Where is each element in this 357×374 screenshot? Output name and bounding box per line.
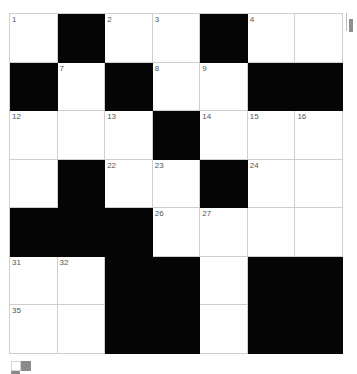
- clue-number: 23: [155, 161, 164, 170]
- clue-number: 26: [155, 209, 164, 218]
- crossword-cell[interactable]: [200, 305, 248, 354]
- crossword-cell[interactable]: [295, 14, 343, 63]
- clue-number: 31: [12, 258, 21, 267]
- crossword-cell[interactable]: 4: [248, 14, 296, 63]
- scrollbar[interactable]: [346, 13, 354, 33]
- black-cell: [153, 111, 201, 160]
- crossword-cell[interactable]: 35: [10, 305, 58, 354]
- clue-number: 13: [107, 112, 116, 121]
- black-cell: [105, 63, 153, 112]
- crossword-cell[interactable]: 8: [153, 63, 201, 112]
- clue-number: 4: [250, 15, 254, 24]
- black-cell: [105, 208, 153, 257]
- black-cell: [153, 257, 201, 306]
- black-cell: [248, 305, 296, 354]
- clue-number: 32: [60, 258, 69, 267]
- gray-square-icon: [21, 361, 31, 371]
- black-cell: [58, 14, 106, 63]
- black-cell: [295, 63, 343, 112]
- clue-number: 27: [202, 209, 211, 218]
- black-cell: [295, 305, 343, 354]
- clue-number: 1: [12, 15, 16, 24]
- black-cell: [248, 257, 296, 306]
- black-cell: [200, 160, 248, 209]
- clue-number: 15: [250, 112, 259, 121]
- crossword-cell[interactable]: 32: [58, 257, 106, 306]
- black-cell: [153, 305, 201, 354]
- black-cell: [295, 257, 343, 306]
- crossword-cell[interactable]: 24: [248, 160, 296, 209]
- crossword-cell[interactable]: 13: [105, 111, 153, 160]
- crossword-cell[interactable]: 15: [248, 111, 296, 160]
- crossword-grid: 123478912131415162223242627313235: [9, 13, 343, 354]
- crossword-cell[interactable]: 22: [105, 160, 153, 209]
- clue-number: 16: [297, 112, 306, 121]
- crossword-cell[interactable]: 16: [295, 111, 343, 160]
- crossword-cell[interactable]: 3: [153, 14, 201, 63]
- clue-number: 8: [155, 64, 159, 73]
- scrollbar-thumb-icon[interactable]: [349, 19, 353, 32]
- black-cell: [58, 208, 106, 257]
- crossword-cell[interactable]: [58, 111, 106, 160]
- clue-number: 7: [60, 64, 64, 73]
- crossword-cell[interactable]: [295, 160, 343, 209]
- crossword-cell[interactable]: 12: [10, 111, 58, 160]
- black-cell: [105, 305, 153, 354]
- crossword-cell[interactable]: 26: [153, 208, 201, 257]
- clue-number: 12: [12, 112, 21, 121]
- clue-number: 22: [107, 161, 116, 170]
- clue-number: 14: [202, 112, 211, 121]
- crossword-cell[interactable]: 31: [10, 257, 58, 306]
- black-cell: [200, 14, 248, 63]
- black-cell: [10, 63, 58, 112]
- crossword-cell[interactable]: [295, 208, 343, 257]
- crossword-cell[interactable]: 23: [153, 160, 201, 209]
- black-cell: [10, 208, 58, 257]
- crossword-cell[interactable]: 14: [200, 111, 248, 160]
- crossword-cell[interactable]: 27: [200, 208, 248, 257]
- clue-number: 24: [250, 161, 259, 170]
- black-cell: [105, 257, 153, 306]
- clue-number: 9: [202, 64, 206, 73]
- crossword-cell[interactable]: 9: [200, 63, 248, 112]
- crossword-cell[interactable]: [10, 160, 58, 209]
- crossword-cell[interactable]: 2: [105, 14, 153, 63]
- black-cell: [58, 160, 106, 209]
- crossword-cell[interactable]: [248, 208, 296, 257]
- grid-toggle-icon[interactable]: [10, 360, 34, 374]
- crossword-cell[interactable]: 1: [10, 14, 58, 63]
- black-cell: [248, 63, 296, 112]
- crossword-cell[interactable]: 7: [58, 63, 106, 112]
- clue-number: 2: [107, 15, 111, 24]
- scrollbar-track: [346, 13, 347, 31]
- clue-number: 3: [155, 15, 159, 24]
- crossword-cell[interactable]: [200, 257, 248, 306]
- crossword-cell[interactable]: [58, 305, 106, 354]
- white-square-icon: [11, 361, 21, 371]
- clue-number: 35: [12, 306, 21, 315]
